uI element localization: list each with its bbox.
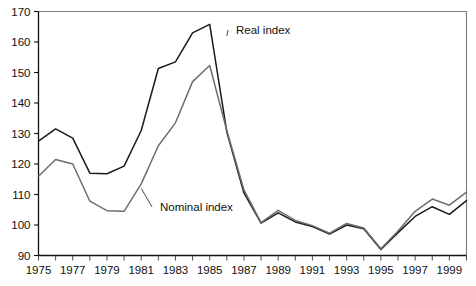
y-tick-label: 120	[11, 158, 30, 170]
x-tick-label: 1997	[402, 264, 428, 276]
x-tick-label: 1981	[128, 264, 154, 276]
x-tick-label: 1977	[60, 264, 86, 276]
annotation-leader-nominal-index	[141, 188, 152, 207]
series-line-real-index	[39, 24, 467, 249]
y-tick-label: 110	[12, 189, 30, 201]
plot-axes	[39, 12, 467, 256]
series-line-nominal-index	[39, 65, 467, 248]
x-axis-tick-labels: 1975197719791981198319851987198919911993…	[26, 264, 462, 276]
x-tick-label: 1991	[300, 264, 326, 276]
x-tick-label: 1985	[197, 264, 223, 276]
y-tick-label: 160	[11, 36, 30, 48]
x-tick-label: 1975	[26, 264, 52, 276]
y-tick-label: 90	[18, 250, 31, 262]
plot-frame-outline	[39, 12, 467, 256]
y-tick-label: 170	[11, 6, 30, 18]
x-tick-label: 1983	[163, 264, 189, 276]
x-tick-label: 1987	[231, 264, 257, 276]
annotation-leader-real-index	[227, 30, 228, 36]
x-tick-label: 1995	[368, 264, 394, 276]
annotation-label-nominal-index: Nominal index	[160, 201, 233, 213]
chart-figure: 90100110120130140150160170 1975197719791…	[0, 0, 476, 286]
series-annotations: Real indexNominal index	[141, 24, 290, 213]
plot-frame	[39, 12, 467, 256]
y-axis-tick-labels: 90100110120130140150160170	[11, 6, 30, 262]
x-tick-label: 1979	[94, 264, 120, 276]
y-tick-label: 100	[11, 219, 30, 231]
x-tick-label: 1989	[265, 264, 291, 276]
y-axis-ticks	[34, 12, 39, 256]
y-tick-label: 140	[11, 97, 30, 109]
x-tick-label: 1999	[437, 264, 463, 276]
x-axis-ticks	[39, 256, 467, 261]
series-paths	[39, 24, 467, 249]
line-chart: 90100110120130140150160170 1975197719791…	[0, 0, 476, 286]
y-tick-label: 130	[11, 128, 30, 140]
y-tick-label: 150	[11, 67, 30, 79]
annotation-label-real-index: Real index	[236, 24, 291, 36]
x-tick-label: 1993	[334, 264, 360, 276]
